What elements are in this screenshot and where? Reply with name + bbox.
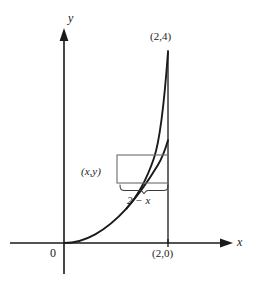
x-axis-arrowhead: [220, 239, 233, 248]
figure-canvas: y x 0 (2,4) (2,0) (x,y) 2 − x: [0, 0, 259, 284]
graph-svg: [0, 0, 259, 284]
point-label-x-y: (x,y): [81, 166, 101, 177]
parabola-curve-top: [126, 52, 168, 209]
parabola-curve: [64, 140, 168, 243]
x-axis-label: x: [237, 236, 242, 248]
origin-label: 0: [50, 247, 56, 259]
strip-width-label: 2 − x: [127, 195, 150, 206]
axes-group: [10, 28, 233, 274]
y-axis-label: y: [68, 12, 73, 24]
y-axis-arrowhead: [60, 28, 69, 41]
point-label-2-4: (2,4): [150, 31, 171, 42]
point-label-2-0: (2,0): [152, 248, 173, 259]
